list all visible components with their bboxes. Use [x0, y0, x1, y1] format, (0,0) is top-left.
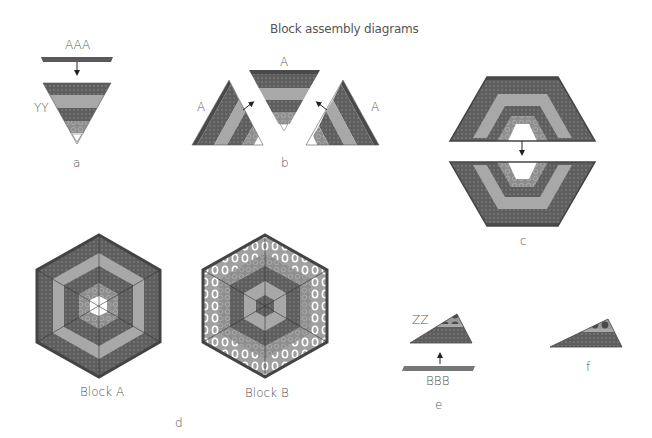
caption-a: a [73, 156, 80, 170]
strip-bbb [402, 366, 475, 371]
caption-d: d [175, 416, 183, 430]
assembly-diagrams [0, 0, 652, 438]
panel-c [450, 77, 595, 226]
label-block-a: Block A [80, 385, 124, 399]
label-b-left: A [197, 100, 205, 114]
block-a [37, 235, 160, 377]
label-bbb: BBB [426, 374, 450, 388]
caption-c: c [520, 234, 527, 248]
panel-b [192, 70, 379, 145]
label-b-right: A [371, 100, 379, 114]
block-b [203, 235, 327, 377]
caption-b: b [281, 156, 289, 170]
strip-aaa [41, 57, 113, 62]
panel-f [545, 315, 625, 347]
panel-a [40, 57, 115, 145]
label-zz: ZZ [412, 313, 428, 327]
label-aaa: AAA [65, 38, 90, 52]
label-b-top: A [280, 55, 288, 69]
caption-f: f [586, 360, 590, 374]
label-block-b: Block B [245, 386, 289, 400]
label-yy: YY [34, 101, 49, 115]
caption-e: e [435, 398, 442, 412]
